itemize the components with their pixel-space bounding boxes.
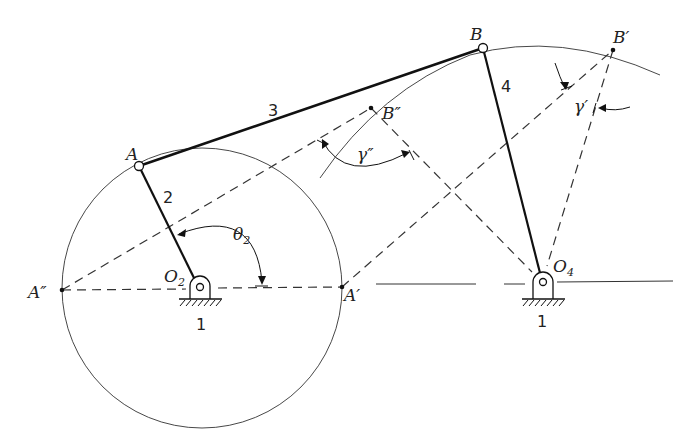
ground-pivot-O2-icon: [179, 276, 222, 306]
label-A: A: [124, 144, 138, 164]
ground-line-right: [557, 281, 673, 282]
label-O4: O4: [553, 256, 574, 279]
label-ground-1-right: 1: [537, 312, 547, 331]
label-link-3: 3: [268, 101, 278, 120]
gamma-double-prime-arrowhead-2: [401, 150, 410, 158]
theta2-arrowhead-start: [177, 229, 186, 237]
theta2-arrowhead-end: [258, 276, 266, 285]
ground-pivot-O4-icon: [522, 272, 565, 306]
label-B-prime: B′: [612, 27, 629, 47]
dashed-line-A2-O2: [62, 289, 186, 290]
label-B-double-prime: B″: [381, 103, 401, 123]
link-3-coupler: [139, 48, 483, 166]
label-link-4: 4: [501, 77, 511, 96]
link-4-rocker: [483, 48, 540, 273]
label-B: B: [469, 24, 483, 44]
joint-B-icon: [479, 44, 488, 53]
gamma-double-prime-arrowhead-1: [322, 139, 329, 149]
label-O2: O2: [164, 266, 185, 289]
point-A-double-prime-icon: [60, 288, 65, 293]
label-theta2: θ2: [233, 224, 250, 247]
label-A-double-prime: A″: [26, 282, 47, 302]
point-B-double-prime-icon: [369, 106, 374, 111]
dashed-line-O2-A1: [218, 287, 342, 288]
four-bar-linkage-diagram: A B B′ B″ A′ A″ O2 O4 2 3 4 1 1 θ2 γ″ γ′: [0, 0, 689, 442]
dashed-line-B1-O4: [547, 50, 613, 266]
label-link-2: 2: [163, 188, 173, 207]
dashed-line-B2-O4: [371, 108, 532, 272]
dashed-line-A1-B1: [342, 50, 613, 287]
label-A-prime: A′: [342, 285, 360, 305]
point-B-prime-icon: [611, 48, 616, 53]
dashed-line-A2-B2: [62, 108, 371, 290]
label-gamma-double-prime: γ″: [357, 144, 374, 164]
label-gamma-prime: γ′: [574, 96, 588, 116]
label-ground-1-left: 1: [196, 315, 206, 334]
link-2-crank: [139, 166, 195, 280]
gamma-prime-arrowhead-2: [598, 104, 606, 112]
